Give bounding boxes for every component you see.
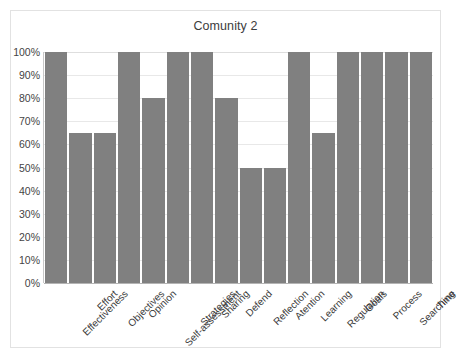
bar-slot[interactable] <box>190 52 214 283</box>
bar[interactable] <box>288 52 310 283</box>
bar-slot[interactable] <box>287 52 311 283</box>
bar-slot[interactable] <box>214 52 238 283</box>
x-axis-tick-label: Process <box>390 288 423 321</box>
bar[interactable] <box>385 52 407 283</box>
x-axis-tick-label-text: Time <box>435 288 458 311</box>
y-axis-tick-label: 40% <box>11 185 40 197</box>
bar[interactable] <box>142 98 164 283</box>
bar-slot[interactable] <box>117 52 141 283</box>
x-axis-tick-label: Goals <box>363 288 389 314</box>
bar-slot[interactable] <box>360 52 384 283</box>
y-axis-tick-labels: 0%10%20%30%40%50%60%70%80%90%100% <box>11 52 40 283</box>
bar[interactable] <box>312 133 334 283</box>
y-axis-tick-label: 20% <box>11 231 40 243</box>
plot-area <box>44 52 433 283</box>
bar[interactable] <box>337 52 359 283</box>
bar-slot[interactable] <box>93 52 117 283</box>
bar-slot[interactable] <box>311 52 335 283</box>
y-axis-tick-label: 80% <box>11 92 40 104</box>
bar[interactable] <box>215 98 237 283</box>
bar-slot[interactable] <box>409 52 433 283</box>
bar[interactable] <box>69 133 91 283</box>
y-axis-tick-label: 0% <box>11 277 40 289</box>
y-axis-tick-label: 70% <box>11 115 40 127</box>
x-axis-tick-label: Time <box>435 288 458 311</box>
y-axis-tick-label: 60% <box>11 138 40 150</box>
bar-series <box>44 52 433 283</box>
x-axis-tick-label-text: Goals <box>363 288 389 314</box>
bar[interactable] <box>410 52 432 283</box>
bar-slot[interactable] <box>166 52 190 283</box>
bar[interactable] <box>118 52 140 283</box>
bar-slot[interactable] <box>141 52 165 283</box>
x-axis-tick-label-text: Process <box>390 288 423 321</box>
bar-slot[interactable] <box>384 52 408 283</box>
y-axis-tick-label: 50% <box>11 162 40 174</box>
y-axis-tick-label: 90% <box>11 69 40 81</box>
bar[interactable] <box>167 52 189 283</box>
bar[interactable] <box>94 133 116 283</box>
x-axis-tick-labels: EffectivenessEffortObjectivesOpinionSelf… <box>44 283 433 345</box>
bar-slot[interactable] <box>239 52 263 283</box>
bar-slot[interactable] <box>68 52 92 283</box>
bar[interactable] <box>191 52 213 283</box>
bar-slot[interactable] <box>263 52 287 283</box>
y-axis-tick-label: 10% <box>11 254 40 266</box>
bar-slot[interactable] <box>336 52 360 283</box>
bar[interactable] <box>361 52 383 283</box>
y-axis-tick-label: 100% <box>11 46 40 58</box>
bar[interactable] <box>45 52 67 283</box>
chart-figure: Comunity 2 0%10%20%30%40%50%60%70%80%90%… <box>10 10 441 348</box>
bar-slot[interactable] <box>44 52 68 283</box>
chart-title: Comunity 2 <box>11 19 440 33</box>
y-axis-tick-label: 30% <box>11 208 40 220</box>
bar[interactable] <box>240 168 262 284</box>
bar[interactable] <box>264 168 286 284</box>
